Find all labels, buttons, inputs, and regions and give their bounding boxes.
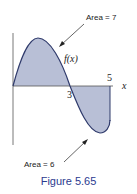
arrow-bottom: [64, 141, 86, 162]
arrow-top: [61, 24, 84, 45]
tick-3-label: 3: [67, 89, 72, 100]
area-top-label: Area = 7: [86, 13, 117, 22]
figure-caption: Figure 5.65: [0, 175, 137, 187]
tick-5-label: 5: [107, 72, 112, 83]
area-bottom-label: Area = 6: [24, 160, 55, 169]
x-axis-label: x: [121, 80, 127, 91]
figure-plot: Area = 7 Area = 6 f(x) 3 5 x: [0, 0, 137, 194]
function-label: f(x): [64, 53, 79, 65]
